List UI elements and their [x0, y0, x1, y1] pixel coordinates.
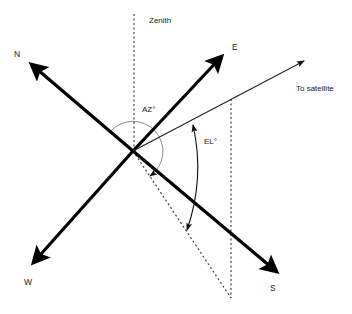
- north-arrow: [31, 64, 133, 151]
- west-label: W: [24, 277, 32, 287]
- east-label: E: [232, 42, 238, 52]
- south-label: S: [270, 283, 276, 293]
- elevation-arc: [187, 125, 198, 230]
- north-label: N: [14, 49, 20, 59]
- west-arrow: [33, 151, 133, 263]
- satellite-label: To satellite: [296, 84, 334, 93]
- ground-projection-line: [133, 151, 231, 298]
- az-el-diagram: Zenith N E W S AZ° EL° To satellite: [0, 0, 352, 314]
- elevation-label: EL°: [204, 137, 217, 146]
- zenith-label: Zenith: [149, 16, 171, 25]
- south-arrow: [133, 151, 277, 272]
- satellite-line: [133, 61, 304, 151]
- azimuth-label: AZ°: [142, 105, 155, 114]
